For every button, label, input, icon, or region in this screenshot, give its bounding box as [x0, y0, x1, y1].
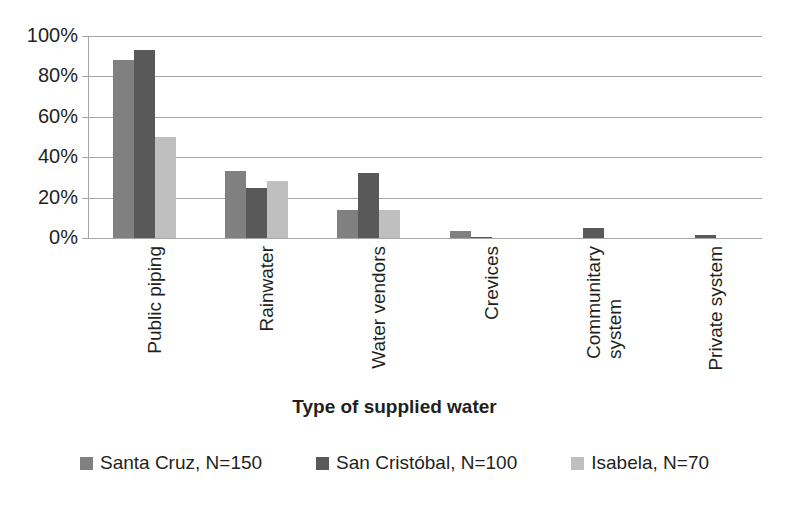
legend: Santa Cruz, N=150San Cristóbal, N=100Isa…: [0, 452, 789, 474]
bar: [379, 210, 400, 238]
gridline: [88, 238, 762, 239]
legend-item: Santa Cruz, N=150: [80, 452, 262, 474]
x-axis-category-label: Private system: [705, 246, 726, 371]
legend-label: San Cristóbal, N=100: [336, 452, 517, 474]
y-axis-tick-label: 20%: [0, 187, 78, 207]
gridline: [88, 76, 762, 77]
bar: [583, 228, 604, 238]
legend-swatch: [571, 457, 584, 470]
bar: [134, 50, 155, 238]
y-axis-tick-label: 0%: [0, 227, 78, 247]
y-axis-tick-label: 100%: [0, 25, 78, 45]
bar-chart: 0%20%40%60%80%100% Public pipingRainwate…: [0, 0, 789, 512]
legend-swatch: [316, 457, 329, 470]
x-axis-category-label: Communitary system: [583, 246, 626, 359]
bar: [695, 235, 716, 238]
gridline: [88, 198, 762, 199]
gridline: [88, 157, 762, 158]
bar-group: [337, 36, 400, 238]
bar: [358, 173, 379, 238]
legend-item: Isabela, N=70: [571, 452, 709, 474]
gridline: [88, 117, 762, 118]
bar: [450, 231, 471, 238]
x-axis-category-label: Water vendors: [368, 246, 389, 369]
legend-swatch: [80, 457, 93, 470]
bar: [471, 237, 492, 238]
x-axis-category-label: Crevices: [481, 246, 502, 320]
gridline: [88, 36, 762, 37]
y-axis-tick-label: 40%: [0, 146, 78, 166]
bar-group: [225, 36, 288, 238]
bar: [267, 181, 288, 238]
y-axis-tick-label: 60%: [0, 106, 78, 126]
bar: [225, 171, 246, 238]
bar-group: [113, 36, 176, 238]
bar: [246, 188, 267, 239]
bar: [155, 137, 176, 238]
legend-item: San Cristóbal, N=100: [316, 452, 517, 474]
plot-area: [88, 36, 762, 238]
legend-label: Isabela, N=70: [591, 452, 709, 474]
legend-label: Santa Cruz, N=150: [100, 452, 262, 474]
y-axis-tick-label: 80%: [0, 65, 78, 85]
bar-group: [674, 36, 737, 238]
bar: [113, 60, 134, 238]
x-axis-category-label: Rainwater: [256, 246, 277, 332]
bar-group: [562, 36, 625, 238]
bar: [337, 210, 358, 238]
x-axis-category-label: Public piping: [144, 246, 165, 354]
x-axis-title: Type of supplied water: [0, 396, 789, 418]
bar-group: [450, 36, 513, 238]
